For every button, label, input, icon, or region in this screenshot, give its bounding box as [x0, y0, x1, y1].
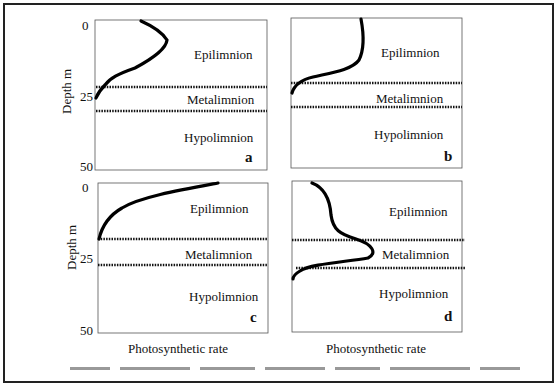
panel-b-epilimnion-label: Epilimnion: [381, 45, 440, 60]
panel-c: Epilimnion Metalimnion Hypolimnion c 0 2…: [64, 180, 268, 356]
panel-d-x-axis-label: Photosynthetic rate: [326, 341, 426, 356]
panel-c-tick-0: 0: [82, 180, 89, 195]
panel-a-tick-50: 50: [80, 159, 93, 174]
panel-a-tick-25: 25: [80, 89, 93, 104]
panel-b-hypolimnion-label: Hypolimnion: [374, 127, 444, 142]
panel-b-letter: b: [444, 148, 452, 164]
panel-d-metalimnion-label: Metalimnion: [382, 247, 450, 262]
panel-c-y-axis-label: Depth m: [64, 225, 79, 270]
panel-a-tick-0: 0: [82, 18, 89, 33]
panel-a: Epilimnion Metalimnion Hypolimnion a 0 2…: [59, 18, 267, 174]
panel-a-metalimnion-label: Metalimnion: [187, 92, 255, 107]
panel-d-letter: d: [444, 308, 453, 324]
panel-d: Epilimnion Metalimnion Hypolimnion d Pho…: [292, 181, 465, 356]
figure-caption-cutoff: [60, 362, 540, 370]
panel-c-hypolimnion-label: Hypolimnion: [189, 289, 259, 304]
panel-d-hypolimnion-label: Hypolimnion: [379, 286, 449, 301]
panel-a-letter: a: [245, 149, 253, 165]
panel-c-tick-50: 50: [80, 323, 93, 338]
panel-c-x-axis-label: Photosynthetic rate: [128, 341, 228, 356]
panel-b: Epilimnion Metalimnion Hypolimnion b: [291, 18, 462, 168]
panel-c-letter: c: [250, 309, 257, 325]
panel-a-y-axis-label: Depth m: [59, 69, 74, 114]
panel-c-epilimnion-label: Epilimnion: [190, 201, 249, 216]
panel-b-metalimnion-label: Metalimnion: [376, 91, 444, 106]
panel-a-epilimnion-label: Epilimnion: [194, 47, 253, 62]
panel-c-tick-25: 25: [80, 251, 93, 266]
panel-d-epilimnion-label: Epilimnion: [389, 204, 448, 219]
panel-a-hypolimnion-label: Hypolimnion: [184, 130, 254, 145]
panel-c-metalimnion-label: Metalimnion: [185, 247, 253, 262]
